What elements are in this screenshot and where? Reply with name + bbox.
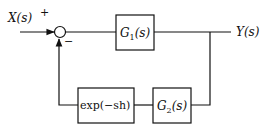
feedback-right-line (191, 32, 210, 105)
input-plus-sign: + (40, 6, 49, 19)
feedback-minus-sign: − (64, 35, 73, 48)
feedback-left-line (59, 39, 78, 105)
delay-label: exp(−sh) (80, 99, 130, 112)
block-diagram: X(s) + − G1(s) Y(s) G2(s) exp(−sh) (0, 0, 264, 132)
g1-label: G1(s) (120, 26, 151, 42)
output-label: Y(s) (236, 25, 260, 39)
g2-label: G2(s) (157, 99, 188, 115)
input-label: X(s) (7, 11, 32, 25)
